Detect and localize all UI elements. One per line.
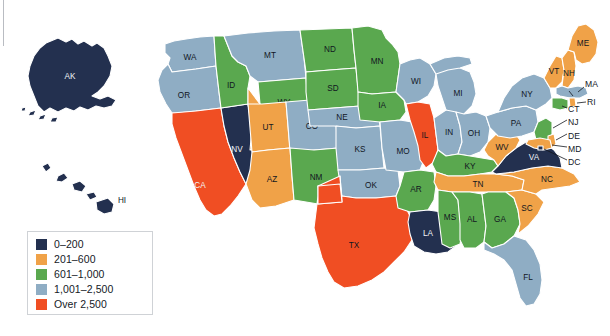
legend-item[interactable]: Over 2,500 <box>36 297 152 311</box>
state-label-HI: HI <box>118 196 126 205</box>
legend-swatch <box>36 284 47 295</box>
state-label-MO: MO <box>396 147 409 156</box>
state-label-WA: WA <box>184 53 197 62</box>
state-label-OH: OH <box>468 129 480 138</box>
legend-label: 601–1,000 <box>54 269 105 280</box>
state-label-SD: SD <box>327 84 338 93</box>
state-label-AZ: AZ <box>267 175 277 184</box>
state-MI[interactable] <box>430 56 476 116</box>
state-label-AL: AL <box>467 215 477 224</box>
callout-label-MA: MA <box>585 79 598 89</box>
state-label-NC: NC <box>541 175 553 184</box>
state-CT[interactable] <box>552 98 568 110</box>
state-label-AR: AR <box>410 185 421 194</box>
state-label-WI: WI <box>411 77 421 86</box>
callout-label-CT: CT <box>568 104 580 114</box>
state-label-NY: NY <box>521 90 533 99</box>
callout-label-RI: RI <box>587 97 596 107</box>
state-label-WV: WV <box>495 143 509 152</box>
leader-line-RI <box>577 102 586 103</box>
state-label-AK: AK <box>65 72 76 81</box>
state-label-CA: CA <box>194 181 206 190</box>
state-label-KY: KY <box>465 162 476 171</box>
legend-swatch <box>36 299 47 310</box>
leader-line-NJ <box>553 120 567 128</box>
state-label-NE: NE <box>336 113 348 122</box>
state-label-IN: IN <box>445 128 453 137</box>
state-label-TN: TN <box>473 180 484 189</box>
state-DC[interactable] <box>538 146 543 150</box>
state-label-VA: VA <box>529 153 540 162</box>
legend-swatch <box>36 254 47 265</box>
state-label-MI: MI <box>453 89 462 98</box>
legend-label: Over 2,500 <box>54 299 107 310</box>
state-label-PA: PA <box>511 119 522 128</box>
state-label-NH: NH <box>563 69 575 78</box>
callout-label-NJ: NJ <box>568 117 579 127</box>
state-label-UT: UT <box>263 123 274 132</box>
state-label-MN: MN <box>371 57 384 66</box>
state-label-ME: ME <box>577 39 590 48</box>
legend-swatch <box>36 269 47 280</box>
state-label-FL: FL <box>523 273 533 282</box>
state-label-TX: TX <box>349 241 360 250</box>
state-label-GA: GA <box>494 215 506 224</box>
callout-label-MD: MD <box>568 144 581 154</box>
callout-label-DE: DE <box>568 131 580 141</box>
state-HI[interactable] <box>42 163 114 214</box>
state-label-LA: LA <box>423 229 434 238</box>
state-label-ID: ID <box>227 81 235 90</box>
state-label-IL: IL <box>422 131 429 140</box>
legend-item[interactable]: 201–600 <box>36 252 152 266</box>
legend-item[interactable]: 0–200 <box>36 237 152 251</box>
legend-item[interactable]: 601–1,000 <box>36 267 152 281</box>
state-OR[interactable] <box>158 64 221 113</box>
state-label-KS: KS <box>355 145 366 154</box>
legend-label: 0–200 <box>54 239 84 250</box>
state-label-ND: ND <box>324 45 336 54</box>
state-label-MT: MT <box>264 51 276 60</box>
state-label-NV: NV <box>231 145 243 154</box>
callout-label-DC: DC <box>568 157 580 167</box>
state-label-MS: MS <box>444 213 457 222</box>
state-label-VT: VT <box>549 67 559 76</box>
legend-label: 1,001–2,500 <box>54 284 114 295</box>
legend-item[interactable]: 1,001–2,500 <box>36 282 152 296</box>
map-legend: 0–200 201–600 601–1,000 1,001–2,500 Over… <box>27 231 153 315</box>
state-label-OR: OR <box>178 91 190 100</box>
state-label-IA: IA <box>378 101 386 110</box>
state-label-NM: NM <box>310 173 323 182</box>
legend-label: 201–600 <box>54 254 96 265</box>
leader-line-DE <box>556 134 567 140</box>
legend-swatch <box>36 239 47 250</box>
state-label-SC: SC <box>521 204 532 213</box>
state-label-OK: OK <box>365 181 377 190</box>
